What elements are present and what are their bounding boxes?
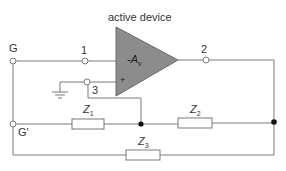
- junction-dot-right: [271, 119, 277, 125]
- z1-label: Z1: [83, 104, 94, 117]
- gain-subscript: v: [138, 60, 142, 67]
- circuit-diagram: active device G 1 2 3 G' -Av + Z1 Z2 Z3: [0, 0, 286, 171]
- z1-main: Z: [83, 103, 90, 115]
- gain-label: -Av: [127, 54, 142, 67]
- terminal-g-label: G: [9, 43, 18, 54]
- z1-subscript: 1: [90, 110, 94, 117]
- ground-icon: [52, 92, 68, 98]
- terminal-3-circle: [84, 79, 90, 85]
- terminal-1-label: 1: [81, 45, 87, 56]
- amplifier-triangle-icon: [116, 27, 178, 96]
- z2-subscript: 2: [197, 110, 201, 117]
- active-device-label: active device: [108, 12, 172, 23]
- terminal-1-circle: [82, 58, 88, 64]
- terminal-gprime-circle: [10, 121, 16, 127]
- terminal-gprime-label: G': [18, 127, 29, 138]
- z2-main: Z: [190, 103, 197, 115]
- z3-subscript: 3: [145, 142, 149, 149]
- junction-dot-center: [138, 121, 143, 126]
- terminal-g-circle: [10, 58, 16, 64]
- terminal-2-label: 2: [201, 44, 207, 55]
- resistor-z2: [178, 118, 212, 128]
- z2-label: Z2: [190, 104, 201, 117]
- plus-sign: +: [120, 76, 125, 85]
- terminal-2-circle: [203, 57, 209, 63]
- gain-main: -A: [127, 53, 138, 65]
- resistor-z1: [72, 119, 104, 129]
- z3-label: Z3: [138, 136, 149, 149]
- terminal-3-label: 3: [92, 85, 98, 96]
- resistor-z3: [126, 150, 160, 160]
- z3-main: Z: [138, 135, 145, 147]
